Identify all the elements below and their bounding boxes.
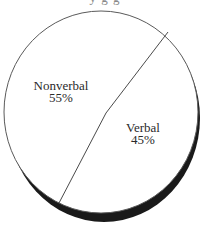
pie-chart-graphic xyxy=(0,0,210,227)
slice-label-verbal: Verbal 45% xyxy=(113,122,173,146)
pie-chart: Nonverbal 55% Verbal 45% xyxy=(0,0,210,227)
slice-label-nonverbal: Nonverbal 55% xyxy=(31,80,91,104)
slice-percent-verbal: 45% xyxy=(113,134,173,146)
pie-face xyxy=(4,11,198,213)
slice-percent-nonverbal: 55% xyxy=(31,92,91,104)
